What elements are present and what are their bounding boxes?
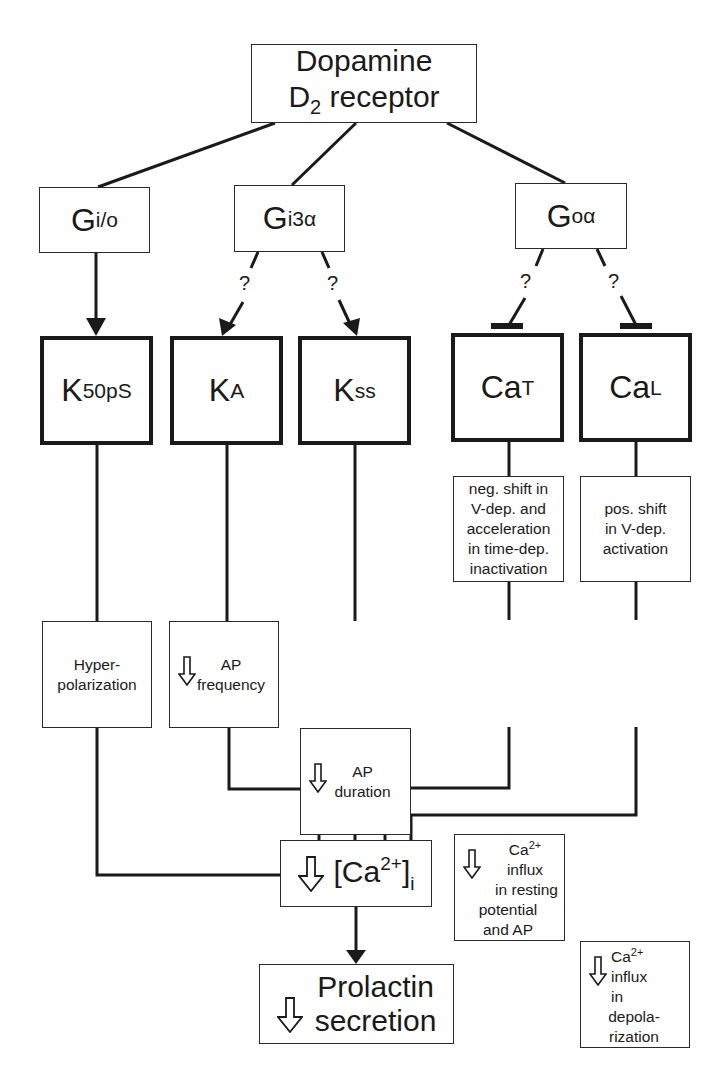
effect-line: Hyper-	[74, 655, 121, 675]
node-prolactin-secretion: Prolactin secretion	[259, 964, 454, 1044]
node-g-i3alpha: Gi3α	[234, 185, 345, 252]
mechanism-line: neg. shift in	[469, 479, 548, 499]
channel-sub: L	[650, 376, 662, 400]
prolactin-text: Prolactin secretion	[315, 970, 437, 1038]
ca-sup: 2+	[380, 853, 402, 874]
node-ap-frequency: AP frequency	[169, 621, 279, 728]
effect-line: in	[611, 987, 681, 1007]
effect-line: influx	[492, 860, 558, 880]
ca-sub: i	[410, 873, 414, 894]
node-cat-mechanism: neg. shift in V-dep. and acceleration in…	[453, 476, 564, 582]
mechanism-line: inactivation	[470, 559, 548, 579]
node-cat-ca-influx: Ca2+ influx in resting potential and AP	[454, 834, 565, 941]
decrease-arrow-icon	[463, 849, 481, 879]
decrease-arrow-icon	[277, 997, 303, 1033]
channel-sub: 50pS	[83, 379, 132, 403]
ca-label: Ca2+	[611, 942, 681, 967]
effect-line: in resting	[458, 880, 558, 900]
decrease-arrow-icon	[589, 956, 607, 986]
effect-line: AP	[221, 655, 242, 675]
channel-sub: A	[230, 379, 244, 403]
effect-line: and AP	[458, 920, 558, 940]
edge-root-gio	[98, 123, 275, 187]
node-hyperpolarization: Hyper- polarization	[42, 621, 152, 728]
node-cal-mechanism: pos. shift in V-dep. activation	[580, 476, 691, 582]
node-kss-channel: Kss	[298, 336, 411, 445]
node-k50ps-channel: K50pS	[40, 336, 153, 445]
effect-line: influx	[611, 967, 681, 987]
uncertain-mark-ka: ?	[239, 272, 250, 295]
arrowhead-k50ps	[86, 318, 106, 336]
channel-label: Ca	[609, 369, 650, 406]
ca-label: Ca2+	[492, 835, 558, 860]
mechanism-line: acceleration	[467, 519, 551, 539]
mechanism-line: V-dep. and	[471, 499, 546, 519]
inhibit-bar-cal	[620, 323, 652, 329]
mechanism-line: pos. shift	[604, 499, 666, 519]
g-sub: i/o	[96, 208, 118, 232]
decrease-arrow-icon	[309, 763, 327, 793]
g-label: G	[263, 200, 288, 237]
uncertain-mark-kss: ?	[327, 272, 338, 295]
node-dopamine-d2-receptor: Dopamine D2 receptor	[251, 44, 477, 123]
prolactin-line2: secretion	[315, 1004, 437, 1038]
ca-main: Ca	[611, 948, 631, 965]
arrowhead-kss	[343, 318, 360, 336]
root-d-sub: 2	[310, 96, 321, 118]
edge-root-gi3a	[292, 123, 356, 185]
root-line2: D2 receptor	[288, 79, 439, 125]
mechanism-line: in time-dep.	[468, 539, 549, 559]
channel-sub: ss	[355, 379, 376, 403]
g-sub: oα	[572, 204, 596, 228]
ca-sup: 2+	[631, 946, 644, 958]
node-ka-channel: KA	[170, 336, 283, 445]
ca-main: Ca	[509, 841, 529, 858]
root-line1: Dopamine	[296, 43, 433, 79]
node-g-oalpha: Goα	[515, 183, 627, 249]
g-label: G	[71, 202, 96, 239]
ca-close: ]	[402, 855, 410, 888]
mechanism-line: activation	[603, 539, 668, 559]
channel-label: K	[209, 372, 230, 409]
node-g-io: Gi/o	[39, 187, 150, 253]
channel-label: K	[333, 372, 354, 409]
prolactin-line1: Prolactin	[315, 970, 437, 1004]
effect-line: duration	[334, 782, 390, 802]
root-d: D	[288, 80, 310, 113]
effect-line: rization	[587, 1027, 681, 1047]
g-sub: i3α	[288, 207, 317, 231]
ca-sup: 2+	[529, 839, 542, 851]
decrease-arrow-icon	[298, 856, 324, 892]
edge-root-goa	[447, 123, 565, 183]
arrowhead-prolactin	[346, 950, 366, 964]
mechanism-line: in V-dep.	[605, 519, 666, 539]
g-label: G	[547, 198, 572, 235]
node-cat-channel: CaT	[451, 333, 564, 442]
effect-line: potential	[458, 900, 558, 920]
node-intracellular-calcium: [Ca2+]i	[280, 840, 432, 907]
ca-open: [Ca	[334, 855, 381, 888]
node-cal-ca-influx: Ca2+ influx in depola- rization	[580, 941, 690, 1048]
decrease-arrow-icon	[178, 656, 196, 686]
uncertain-mark-cat: ?	[520, 270, 531, 293]
node-cal-channel: CaL	[579, 333, 692, 442]
node-ap-duration: AP duration	[300, 728, 411, 835]
channel-label: Ca	[481, 369, 522, 406]
channel-sub: T	[522, 376, 535, 400]
effect-line: polarization	[57, 675, 136, 695]
channel-label: K	[61, 372, 82, 409]
effect-line: AP	[352, 762, 373, 782]
effect-line: frequency	[197, 675, 265, 695]
intracellular-calcium-label: [Ca2+]i	[334, 853, 415, 895]
inhibit-bar-cat	[491, 323, 523, 329]
root-rest: receptor	[321, 80, 439, 113]
effect-line: depola-	[587, 1007, 681, 1027]
uncertain-mark-cal: ?	[608, 270, 619, 293]
